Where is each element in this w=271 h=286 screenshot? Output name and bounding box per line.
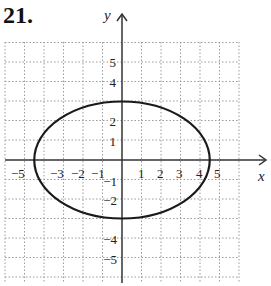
y-tick-label: 1 [110, 134, 117, 149]
x-tick-label: 1 [138, 166, 145, 181]
y-tick-label: −4 [103, 232, 117, 247]
y-tick-label: −2 [103, 193, 117, 208]
x-tick-label: −2 [71, 166, 85, 181]
x-axis-label: x [257, 168, 265, 184]
y-tick-label: 2 [110, 114, 117, 129]
y-tick-labels: 5 4 2 1 −1 −2 −4 −5 [103, 55, 117, 267]
y-tick-label: −5 [103, 252, 117, 267]
y-axis-label: y [102, 7, 111, 23]
x-tick-label: 5 [214, 166, 221, 181]
x-tick-label: 2 [157, 166, 164, 181]
x-tick-label: −5 [11, 166, 25, 181]
coordinate-plane: x y −5 −3 −2 −1 1 2 3 4 5 5 4 2 1 −1 −2 … [0, 0, 271, 286]
x-tick-label: 4 [196, 166, 203, 181]
x-tick-label: 3 [176, 166, 183, 181]
y-tick-label: 4 [110, 75, 117, 90]
x-tick-label: −3 [50, 166, 64, 181]
y-tick-label: 5 [110, 55, 117, 70]
y-tick-label: −1 [103, 174, 117, 189]
